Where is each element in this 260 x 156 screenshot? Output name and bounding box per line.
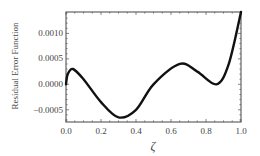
x-tick-label: 0.6 [165,126,177,136]
x-tick-label: 0.2 [95,126,106,136]
y-tick-label: 0.0005 [38,53,63,63]
x-tick-label: 1.0 [235,126,247,136]
axis-ticks [66,12,241,122]
x-tick-label: 0.0 [60,126,72,136]
y-tick-labels: 0.0010 0.0005 0.0000 −0.0005 [33,28,63,115]
residual-error-curve [66,12,241,118]
residual-error-chart: 0.0010 0.0005 0.0000 −0.0005 0.0 0.2 0.4… [0,0,260,156]
x-tick-labels: 0.0 0.2 0.4 0.6 0.8 1.0 [60,126,247,136]
y-tick-label: 0.0000 [38,79,63,89]
y-tick-label: −0.0005 [33,105,63,115]
y-tick-label: 0.0010 [38,28,63,38]
x-tick-label: 0.8 [200,126,212,136]
x-tick-label: 0.4 [130,126,142,136]
x-axis-label: ζ [151,139,157,153]
plot-frame [66,12,241,122]
y-axis-label: Residual Error Function [10,22,20,109]
